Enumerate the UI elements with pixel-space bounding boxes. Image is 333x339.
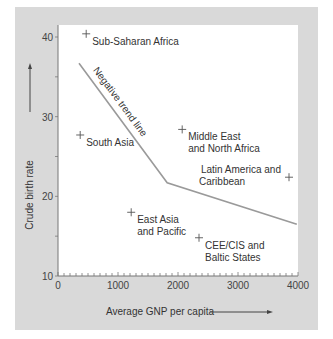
x-tick-label: 2000 [167,280,190,291]
y-axis-label: Crude birth rate [24,160,35,230]
point-label: and North Africa [188,143,260,154]
point-label: Latin America and [201,164,281,175]
x-axis-arrowhead [267,310,273,314]
x-tick-label: 3000 [227,280,250,291]
point-label: Sub-Saharan Africa [92,36,179,47]
point-label: and Pacific [137,226,186,237]
y-tick-label: 10 [42,271,54,282]
y-tick-label: 40 [42,32,54,43]
x-axis-label: Average GNP per capita [106,306,214,317]
point-label: Middle East [188,131,240,142]
x-tick-label: 1000 [107,280,130,291]
y-tick-label: 30 [42,112,54,123]
point-label: South Asia [86,137,134,148]
plot-area [58,25,298,276]
chart: 0100020003000400010203040 Negative trend… [0,0,333,339]
y-tick-label: 20 [42,191,54,202]
point-label: East Asia [137,214,179,225]
point-label: CEE/CIS and [205,240,264,251]
y-axis-arrowhead [28,63,32,69]
point-label: Caribbean [199,176,245,187]
point-label: Baltic States [205,252,261,263]
x-tick-label: 4000 [287,280,310,291]
x-tick-label: 0 [55,280,61,291]
